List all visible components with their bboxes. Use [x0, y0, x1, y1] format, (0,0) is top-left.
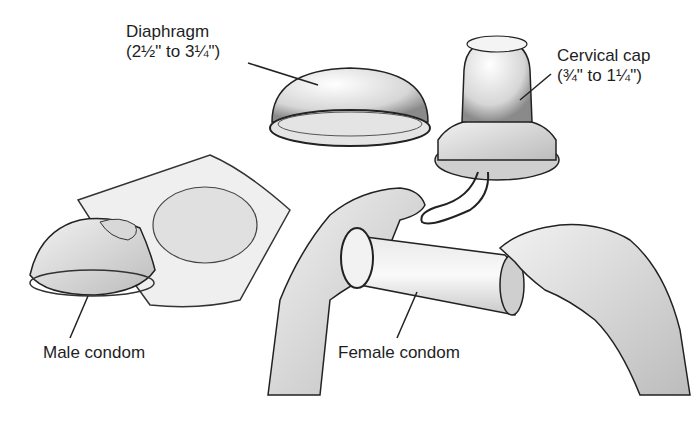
male-condom-drawing	[30, 155, 290, 338]
female-condom-name: Female condom	[338, 343, 460, 362]
cervical-cap-size: (¾" to 1¼")	[557, 66, 651, 86]
male-condom-label: Male condom	[43, 343, 145, 363]
male-condom-name: Male condom	[43, 343, 145, 362]
contraceptive-illustration: Diaphragm (2½" to 3¼") Cervical cap (¾" …	[0, 0, 698, 423]
diaphragm-label: Diaphragm (2½" to 3¼")	[126, 22, 220, 62]
diaphragm-drawing	[248, 63, 430, 146]
female-condom-drawing	[268, 188, 690, 395]
diaphragm-name: Diaphragm	[126, 22, 220, 42]
diaphragm-size: (2½" to 3¼")	[126, 42, 220, 62]
cervical-cap-label: Cervical cap (¾" to 1¼")	[557, 46, 651, 86]
female-condom-label: Female condom	[338, 343, 460, 363]
cervical-cap-name: Cervical cap	[557, 46, 651, 66]
cervical-cap-drawing	[421, 36, 559, 224]
